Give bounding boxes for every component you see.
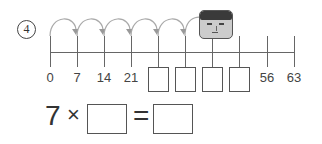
curved-arrow-icon bbox=[158, 19, 184, 36]
equals-sign: = bbox=[133, 100, 149, 132]
curved-arrow-icon bbox=[77, 19, 103, 36]
curved-arrow-icon bbox=[50, 19, 76, 36]
tick-label: 0 bbox=[46, 70, 53, 85]
tick bbox=[185, 36, 186, 67]
tick bbox=[131, 36, 132, 67]
tick-label: 63 bbox=[287, 70, 301, 85]
tick-label: 14 bbox=[97, 70, 111, 85]
jump-arrows bbox=[0, 0, 322, 60]
tick bbox=[104, 36, 105, 67]
answer-box-42[interactable] bbox=[202, 67, 223, 92]
tick bbox=[50, 36, 51, 67]
tick bbox=[267, 36, 268, 67]
tick bbox=[77, 36, 78, 67]
curved-arrow-icon bbox=[104, 19, 130, 36]
answer-box-49[interactable] bbox=[229, 67, 250, 92]
curved-arrow-icon bbox=[131, 19, 157, 36]
multiplicand: 7 bbox=[45, 100, 61, 132]
times-sign: × bbox=[67, 102, 80, 128]
tick bbox=[294, 36, 295, 67]
answer-box-35[interactable] bbox=[175, 67, 196, 92]
factor-box[interactable] bbox=[87, 104, 127, 134]
tick-label: 56 bbox=[260, 70, 274, 85]
boy-face-icon bbox=[199, 10, 233, 39]
tick-label: 21 bbox=[124, 70, 138, 85]
number-line bbox=[50, 52, 295, 53]
tick bbox=[239, 36, 240, 67]
tick-label: 7 bbox=[73, 70, 80, 85]
answer-box-28[interactable] bbox=[148, 67, 169, 92]
product-box[interactable] bbox=[153, 104, 193, 134]
tick bbox=[212, 37, 213, 68]
tick bbox=[158, 36, 159, 67]
